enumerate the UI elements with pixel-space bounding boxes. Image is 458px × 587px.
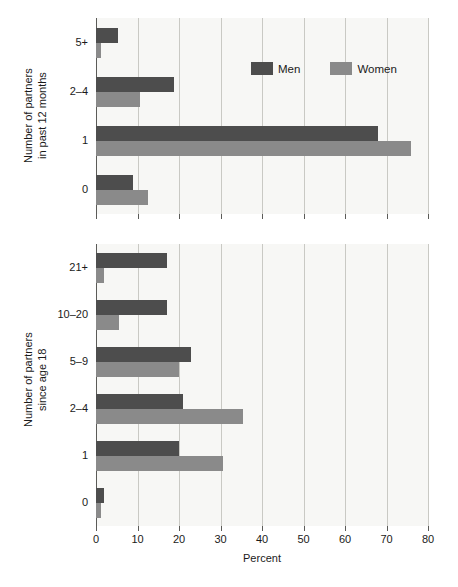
plot-area-top — [96, 18, 428, 214]
bar-group-10-20 — [96, 300, 428, 330]
gridline-80 — [428, 244, 429, 526]
x-tick-top-30 — [221, 214, 222, 219]
bar-men-21+ — [96, 253, 167, 268]
bar-group-0 — [96, 488, 428, 518]
bar-men-5-9 — [96, 347, 191, 362]
bar-women-5-9 — [96, 362, 179, 377]
plot-area-bottom — [96, 244, 428, 526]
bar-men-0 — [96, 175, 133, 190]
x-tick-top-20 — [179, 214, 180, 219]
x-tick-20 — [179, 526, 180, 531]
y-axis-title-bottom: Number of partners since age 18 — [22, 274, 50, 486]
bar-women-2-4 — [96, 409, 243, 424]
x-tick-label-70: 70 — [372, 533, 402, 545]
bar-group-5-9 — [96, 347, 428, 377]
bar-women-10-20 — [96, 315, 119, 330]
gridline-70 — [387, 244, 388, 526]
figure-sexual-partners-bar-charts: Number of partners in past 12 months 012… — [0, 0, 458, 587]
bar-group-21+ — [96, 253, 428, 283]
x-tick-40 — [262, 526, 263, 531]
x-tick-label-50: 50 — [289, 533, 319, 545]
legend-item-women: Women — [330, 62, 396, 75]
y-tick-label-2-4: 2–4 — [70, 402, 88, 414]
bar-men-0 — [96, 488, 104, 503]
y-tick-label-0: 0 — [82, 183, 88, 195]
x-axis-title: Percent — [96, 552, 428, 564]
bar-men-1 — [96, 441, 179, 456]
x-tick-0 — [96, 526, 97, 531]
y-tick-label-10-20: 10–20 — [57, 308, 88, 320]
x-tick-label-60: 60 — [330, 533, 360, 545]
bar-women-21+ — [96, 268, 104, 283]
x-tick-30 — [221, 526, 222, 531]
chart-panel-past-12-months: Number of partners in past 12 months 012… — [0, 0, 458, 230]
bar-group-1 — [96, 126, 428, 156]
legend-swatch-women-icon — [330, 62, 352, 75]
x-tick-60 — [345, 526, 346, 531]
gridline-80 — [428, 18, 429, 214]
legend-item-men: Men — [251, 62, 300, 75]
legend-swatch-men-icon — [251, 62, 273, 75]
gridline-40 — [262, 244, 263, 526]
gridline-10 — [138, 244, 139, 526]
y-tick-label-0: 0 — [82, 496, 88, 508]
legend: Men Women — [251, 62, 397, 75]
y-axis-title-top: Number of partners in past 12 months — [22, 28, 50, 204]
bar-men-2-4 — [96, 77, 174, 92]
x-tick-label-20: 20 — [164, 533, 194, 545]
bar-women-1 — [96, 141, 411, 156]
x-tick-label-40: 40 — [247, 533, 277, 545]
y-tick-label-1: 1 — [82, 134, 88, 146]
gridline-50 — [304, 244, 305, 526]
x-tick-top-40 — [262, 214, 263, 219]
x-tick-label-30: 30 — [206, 533, 236, 545]
bar-women-1 — [96, 456, 223, 471]
y-tick-label-1: 1 — [82, 449, 88, 461]
bar-group-0 — [96, 175, 428, 205]
gridline-20 — [179, 244, 180, 526]
bar-men-1 — [96, 126, 378, 141]
x-tick-top-80 — [428, 214, 429, 219]
legend-label-women: Women — [357, 63, 396, 75]
x-tick-top-0 — [96, 214, 97, 219]
x-tick-10 — [138, 526, 139, 531]
x-tick-top-70 — [387, 214, 388, 219]
chart-panel-since-age-18: Number of partners since age 18 012–45–9… — [0, 232, 458, 532]
bar-women-5+ — [96, 43, 101, 58]
bar-women-2-4 — [96, 92, 140, 107]
bar-group-2-4 — [96, 394, 428, 424]
gridline-60 — [345, 244, 346, 526]
legend-label-men: Men — [278, 63, 300, 75]
bar-women-0 — [96, 503, 101, 518]
y-tick-label-5+: 5+ — [75, 36, 88, 48]
x-tick-top-50 — [304, 214, 305, 219]
y-axis-line-bottom — [96, 244, 97, 526]
gridline-30 — [221, 244, 222, 526]
bar-group-1 — [96, 441, 428, 471]
bar-men-10-20 — [96, 300, 167, 315]
bar-group-5+ — [96, 28, 428, 58]
x-tick-70 — [387, 526, 388, 531]
bar-men-2-4 — [96, 394, 183, 409]
x-tick-label-10: 10 — [123, 533, 153, 545]
bar-men-5+ — [96, 28, 118, 43]
bar-group-2-4 — [96, 77, 428, 107]
x-tick-label-80: 80 — [413, 533, 443, 545]
x-tick-top-10 — [138, 214, 139, 219]
x-tick-label-0: 0 — [81, 533, 111, 545]
y-tick-label-2-4: 2–4 — [70, 85, 88, 97]
x-tick-80 — [428, 526, 429, 531]
x-tick-50 — [304, 526, 305, 531]
y-tick-label-5-9: 5–9 — [70, 355, 88, 367]
bar-women-0 — [96, 190, 148, 205]
x-tick-top-60 — [345, 214, 346, 219]
y-tick-label-21+: 21+ — [69, 261, 88, 273]
